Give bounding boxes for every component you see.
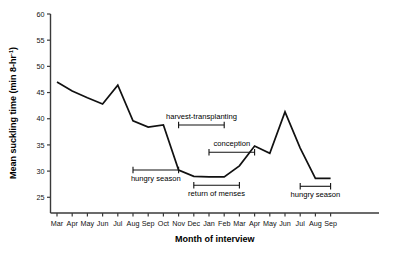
annotation-label: hungry season [290,190,340,199]
data-series-line [57,82,331,178]
x-tick-label: Feb [218,219,230,228]
annotation-bracket [300,183,330,189]
x-tick-label: Dec [187,219,200,228]
y-axis-label: Mean suckling time (min 8-hr-1) [8,47,18,179]
x-tick-label: Mar [51,219,64,228]
y-tick-label: 35 [37,141,45,150]
x-tick-label: May [81,219,95,228]
x-tick-label: Apr [249,219,261,228]
x-tick-label: Jul [113,219,123,228]
y-tick-label: 25 [37,193,45,202]
x-tick-label: Jun [97,219,109,228]
x-tick-label: Sep [142,219,155,228]
y-tick-label: 30 [37,167,45,176]
x-tick-label: Apr [67,219,79,228]
x-tick-label: Aug [127,219,140,228]
x-tick-label: Sep [324,219,337,228]
annotation-label: hungry season [131,174,181,183]
y-tick-label: 45 [37,88,45,97]
y-tick-label: 55 [37,36,45,45]
annotation-label: harvest-transplanting [166,112,237,121]
x-tick-label: Mar [233,219,246,228]
annotation-bracket [179,122,225,128]
x-axis-label: Month of interview [175,234,255,244]
annotation-label: return of menses [188,189,245,198]
y-tick-label: 50 [37,62,45,71]
x-tick-label: May [263,219,277,228]
annotation-bracket [133,167,179,173]
chart-container: 2530354045505560 MarAprMayJunJulAugSepOc… [0,0,397,258]
annotation-label: conception [213,139,250,148]
x-tick-label: Nov [172,219,185,228]
line-chart: 2530354045505560 MarAprMayJunJulAugSepOc… [0,0,397,258]
y-tick-label: 60 [37,10,45,19]
annotation-bracket [194,182,240,188]
x-tick-label: Aug [309,219,322,228]
x-tick-label: Jun [279,219,291,228]
y-tick-label: 40 [37,114,45,123]
x-axis-ticks: MarAprMayJunJulAugSepOctNovDecJanFebMarA… [51,213,337,228]
x-tick-label: Jan [203,219,215,228]
y-axis-ticks: 2530354045505560 [37,10,51,202]
x-tick-label: Oct [158,219,169,228]
x-tick-label: Jul [296,219,306,228]
